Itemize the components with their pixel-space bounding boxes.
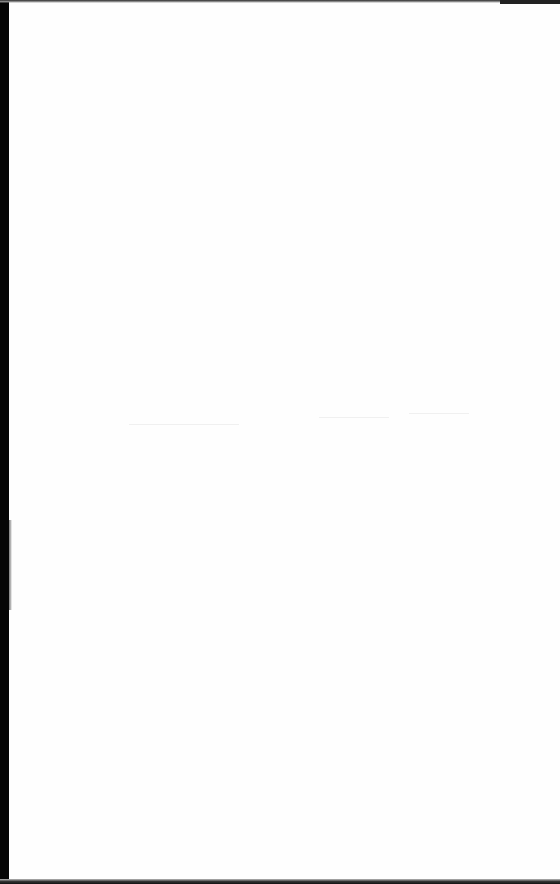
bleed-through-mark	[129, 424, 239, 425]
bleed-through-mark	[409, 413, 469, 414]
blank-page	[9, 3, 560, 879]
bleed-through-mark	[319, 417, 389, 418]
scanner-edge-ragged	[9, 520, 12, 610]
scanner-edge-top	[0, 0, 560, 3]
scanner-edge-left	[0, 0, 9, 884]
scanner-edge-top-right	[500, 0, 560, 4]
scanned-document	[0, 0, 560, 884]
scanner-edge-bottom	[0, 879, 560, 884]
